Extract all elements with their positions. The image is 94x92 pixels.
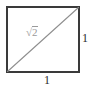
- diagonal-line-shape: [8, 8, 79, 72]
- geometry-figure: √2 1 1: [0, 0, 94, 92]
- radicand-value: 2: [32, 26, 38, 39]
- hypotenuse-length-label: √2: [26, 26, 38, 39]
- right-side-length-label: 1: [82, 32, 88, 44]
- bottom-side-length-label: 1: [44, 74, 50, 86]
- radical-group: √2: [26, 26, 38, 39]
